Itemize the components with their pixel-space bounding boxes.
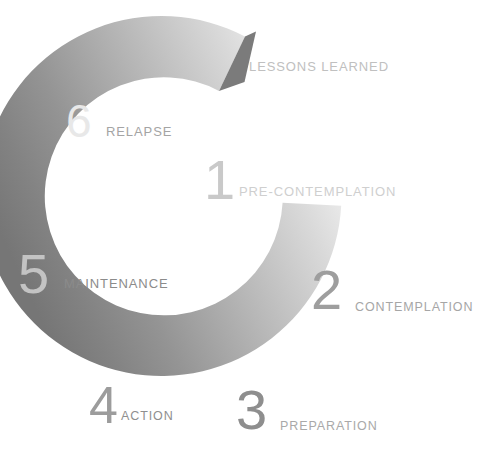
outcome-label-lessons-learned: LESSONS LEARNED [249,60,389,73]
stage-label-action: ACTION [121,410,174,423]
stage-number-3: 3 [236,382,267,438]
stage-number-1: 1 [204,152,235,208]
stages-of-change-diagram: Stages of Change [0,0,499,464]
stage-label-pre-contemplation: PRE-CONTEMPLATION [239,185,396,198]
stage-label-contemplation: CONTEMPLATION [355,301,473,314]
stage-number-5: 5 [18,246,49,302]
stage-label-preparation: PREPARATION [280,420,378,433]
stage-number-4: 4 [89,379,118,431]
stage-number-6: 6 [66,98,92,144]
stage-label-maintenance: MAINTENANCE [64,277,169,290]
stage-number-2: 2 [311,262,342,318]
stage-label-relapse: RELAPSE [106,125,172,138]
